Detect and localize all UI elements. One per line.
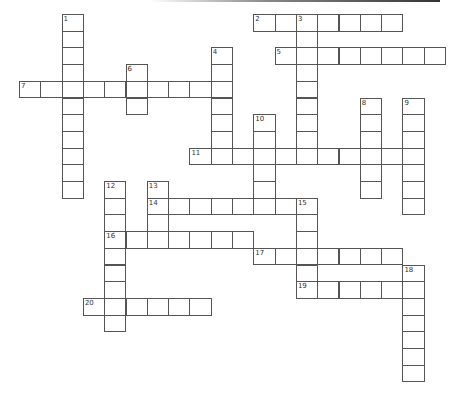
crossword-cell[interactable]: 12 xyxy=(104,181,126,199)
crossword-cell[interactable]: 13 xyxy=(147,181,169,199)
crossword-cell[interactable] xyxy=(275,14,297,32)
crossword-cell[interactable] xyxy=(189,198,211,216)
crossword-cell[interactable]: 6 xyxy=(126,64,148,82)
crossword-cell[interactable] xyxy=(402,365,424,383)
crossword-cell[interactable] xyxy=(253,148,275,166)
crossword-cell[interactable] xyxy=(381,47,403,65)
crossword-cell[interactable] xyxy=(104,298,126,316)
crossword-cell[interactable] xyxy=(62,131,84,149)
crossword-cell[interactable] xyxy=(104,198,126,216)
crossword-cell[interactable] xyxy=(402,181,424,199)
crossword-cell[interactable] xyxy=(296,148,318,166)
crossword-cell[interactable] xyxy=(339,47,361,65)
crossword-cell[interactable] xyxy=(168,298,190,316)
crossword-cell[interactable] xyxy=(168,198,190,216)
crossword-cell[interactable] xyxy=(360,148,382,166)
crossword-cell[interactable]: 19 xyxy=(296,281,318,299)
crossword-cell[interactable] xyxy=(317,148,339,166)
crossword-cell[interactable] xyxy=(211,148,233,166)
crossword-cell[interactable] xyxy=(62,31,84,49)
crossword-cell[interactable] xyxy=(40,81,62,99)
crossword-cell[interactable] xyxy=(296,214,318,232)
crossword-cell[interactable] xyxy=(189,298,211,316)
crossword-cell[interactable] xyxy=(296,265,318,283)
crossword-cell[interactable] xyxy=(104,265,126,283)
crossword-cell[interactable]: 3 xyxy=(296,14,318,32)
crossword-cell[interactable] xyxy=(232,148,254,166)
crossword-cell[interactable]: 15 xyxy=(296,198,318,216)
crossword-cell[interactable] xyxy=(402,47,424,65)
crossword-cell[interactable] xyxy=(296,131,318,149)
crossword-cell[interactable] xyxy=(317,281,339,299)
crossword-cell[interactable] xyxy=(232,198,254,216)
crossword-cell[interactable]: 4 xyxy=(211,47,233,65)
crossword-cell[interactable]: 1 xyxy=(62,14,84,32)
crossword-cell[interactable] xyxy=(296,114,318,132)
crossword-cell[interactable]: 14 xyxy=(147,198,169,216)
crossword-cell[interactable]: 20 xyxy=(83,298,105,316)
crossword-cell[interactable] xyxy=(232,231,254,249)
crossword-cell[interactable] xyxy=(360,248,382,266)
crossword-cell[interactable] xyxy=(402,198,424,216)
crossword-cell[interactable] xyxy=(275,148,297,166)
crossword-cell[interactable] xyxy=(189,81,211,99)
crossword-cell[interactable] xyxy=(402,114,424,132)
crossword-cell[interactable] xyxy=(296,31,318,49)
crossword-cell[interactable] xyxy=(296,231,318,249)
crossword-cell[interactable] xyxy=(126,81,148,99)
crossword-cell[interactable] xyxy=(360,14,382,32)
crossword-cell[interactable] xyxy=(381,281,403,299)
crossword-cell[interactable] xyxy=(147,81,169,99)
crossword-cell[interactable] xyxy=(381,14,403,32)
crossword-cell[interactable] xyxy=(62,164,84,182)
crossword-cell[interactable] xyxy=(211,98,233,116)
crossword-cell[interactable] xyxy=(168,81,190,99)
crossword-cell[interactable]: 9 xyxy=(402,98,424,116)
crossword-cell[interactable] xyxy=(104,281,126,299)
crossword-cell[interactable]: 2 xyxy=(253,14,275,32)
crossword-cell[interactable] xyxy=(339,281,361,299)
crossword-cell[interactable] xyxy=(104,214,126,232)
crossword-cell[interactable] xyxy=(402,281,424,299)
crossword-cell[interactable] xyxy=(402,348,424,366)
crossword-cell[interactable] xyxy=(317,14,339,32)
crossword-cell[interactable] xyxy=(104,248,126,266)
crossword-cell[interactable] xyxy=(402,164,424,182)
crossword-cell[interactable] xyxy=(253,198,275,216)
crossword-cell[interactable] xyxy=(339,148,361,166)
crossword-cell[interactable] xyxy=(62,47,84,65)
crossword-cell[interactable] xyxy=(424,47,446,65)
crossword-cell[interactable] xyxy=(62,148,84,166)
crossword-cell[interactable] xyxy=(360,114,382,132)
crossword-cell[interactable] xyxy=(296,64,318,82)
crossword-cell[interactable] xyxy=(147,298,169,316)
crossword-cell[interactable] xyxy=(381,148,403,166)
crossword-cell[interactable]: 18 xyxy=(402,265,424,283)
crossword-cell[interactable] xyxy=(104,315,126,333)
crossword-cell[interactable]: 10 xyxy=(253,114,275,132)
crossword-cell[interactable] xyxy=(211,114,233,132)
crossword-cell[interactable] xyxy=(339,14,361,32)
crossword-cell[interactable] xyxy=(168,231,190,249)
crossword-cell[interactable] xyxy=(62,81,84,99)
crossword-cell[interactable]: 5 xyxy=(275,47,297,65)
crossword-cell[interactable] xyxy=(147,231,169,249)
crossword-cell[interactable] xyxy=(189,231,211,249)
crossword-cell[interactable] xyxy=(253,181,275,199)
crossword-cell[interactable] xyxy=(402,148,424,166)
crossword-cell[interactable] xyxy=(381,248,403,266)
crossword-cell[interactable] xyxy=(275,198,297,216)
crossword-cell[interactable] xyxy=(211,198,233,216)
crossword-cell[interactable] xyxy=(126,98,148,116)
crossword-cell[interactable] xyxy=(296,81,318,99)
crossword-cell[interactable] xyxy=(296,248,318,266)
crossword-cell[interactable] xyxy=(360,131,382,149)
crossword-cell[interactable] xyxy=(147,214,169,232)
crossword-cell[interactable] xyxy=(126,298,148,316)
crossword-cell[interactable] xyxy=(126,231,148,249)
crossword-cell[interactable] xyxy=(62,64,84,82)
crossword-cell[interactable] xyxy=(62,98,84,116)
crossword-cell[interactable] xyxy=(296,47,318,65)
crossword-cell[interactable] xyxy=(104,81,126,99)
crossword-cell[interactable]: 16 xyxy=(104,231,126,249)
